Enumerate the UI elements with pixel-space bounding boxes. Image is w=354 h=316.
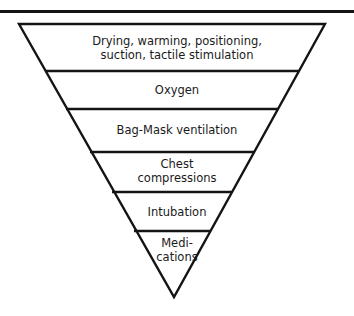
- level-5-line-1: Intubation: [0, 205, 354, 219]
- level-1-line-1: Drying, warming, positioning,: [0, 34, 354, 48]
- level-1-line-2: suction, tactile stimulation: [0, 48, 354, 62]
- level-4-line-1: Chest: [0, 157, 354, 171]
- level-6-line-2: cations: [0, 250, 354, 264]
- level-4-line-2: compressions: [0, 171, 354, 185]
- level-1-label: Drying, warming, positioning, suction, t…: [0, 34, 354, 62]
- level-3-label: Bag-Mask ventilation: [0, 123, 354, 137]
- level-6-line-1: Medi-: [0, 236, 354, 250]
- level-2-line-1: Oxygen: [0, 83, 354, 97]
- level-3-line-1: Bag-Mask ventilation: [0, 123, 354, 137]
- level-4-label: Chest compressions: [0, 157, 354, 185]
- level-6-label: Medi- cations: [0, 236, 354, 264]
- level-2-label: Oxygen: [0, 83, 354, 97]
- level-5-label: Intubation: [0, 205, 354, 219]
